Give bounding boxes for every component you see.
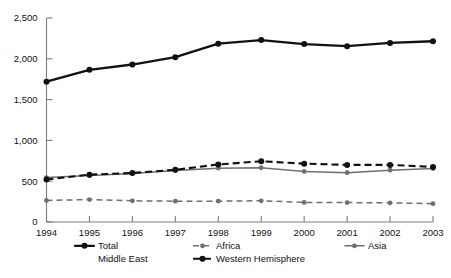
x-tick-label: 1999 bbox=[251, 227, 272, 238]
x-tick-label: 1996 bbox=[122, 227, 143, 238]
series-line bbox=[47, 168, 434, 178]
x-tick-label: 2003 bbox=[422, 227, 443, 238]
legend-label: Middle East bbox=[98, 253, 148, 264]
data-point bbox=[388, 200, 393, 205]
data-point bbox=[301, 41, 307, 47]
x-tick-label: 1997 bbox=[165, 227, 186, 238]
y-tick-label: 1,500 bbox=[14, 94, 38, 105]
legend-marker-icon bbox=[82, 243, 88, 249]
series-asia bbox=[44, 165, 435, 180]
legend-item-middle-east[interactable]: Middle East bbox=[98, 253, 148, 264]
data-point bbox=[130, 198, 135, 203]
data-point bbox=[388, 168, 393, 173]
y-axis-tick-labels: 05001,0001,5002,0002,500 bbox=[14, 12, 38, 227]
data-point bbox=[215, 41, 221, 47]
x-tick-marks bbox=[47, 216, 434, 222]
legend-item-asia[interactable]: Asia bbox=[345, 240, 387, 251]
y-tick-label: 1,000 bbox=[14, 135, 38, 146]
data-point bbox=[215, 161, 221, 167]
data-point bbox=[345, 170, 350, 175]
chart-legend: TotalMiddle EastAfricaWestern Hemisphere… bbox=[75, 240, 387, 264]
data-point bbox=[302, 200, 307, 205]
data-point bbox=[44, 79, 50, 85]
x-tick-label: 1998 bbox=[208, 227, 229, 238]
y-tick-label: 0 bbox=[32, 216, 37, 227]
legend-marker-icon bbox=[352, 243, 357, 248]
y-tick-marks bbox=[47, 18, 53, 222]
series-africa bbox=[44, 197, 435, 206]
data-point bbox=[173, 199, 178, 204]
data-point bbox=[344, 162, 350, 168]
data-point bbox=[86, 172, 92, 178]
data-point bbox=[387, 162, 393, 168]
legend-marker-icon bbox=[200, 243, 205, 248]
x-tick-label: 1994 bbox=[36, 227, 57, 238]
data-series-layer bbox=[44, 37, 437, 206]
data-point bbox=[86, 67, 92, 73]
chart-axes bbox=[47, 18, 434, 222]
legend-marker-icon bbox=[200, 256, 206, 262]
data-point bbox=[216, 199, 221, 204]
x-axis-tick-labels: 1994199519961997199819992000200120022003 bbox=[36, 227, 444, 238]
legend-label: Asia bbox=[368, 240, 387, 251]
data-point bbox=[430, 38, 436, 44]
legend-item-western-hemisphere[interactable]: Western Hemisphere bbox=[193, 253, 305, 264]
data-point bbox=[258, 37, 264, 43]
y-tick-label: 2,000 bbox=[14, 53, 38, 64]
x-tick-label: 2001 bbox=[337, 227, 358, 238]
data-point bbox=[172, 167, 178, 173]
data-point bbox=[344, 43, 350, 49]
data-point bbox=[258, 158, 264, 164]
data-point bbox=[431, 201, 436, 206]
data-point bbox=[430, 164, 436, 170]
data-point bbox=[259, 198, 264, 203]
x-tick-label: 2002 bbox=[379, 227, 400, 238]
data-point bbox=[129, 62, 135, 68]
series-total-middle-east bbox=[44, 37, 437, 85]
data-point bbox=[387, 40, 393, 46]
y-tick-label: 500 bbox=[22, 176, 38, 187]
legend-label: Western Hemisphere bbox=[216, 253, 305, 264]
line-chart: 05001,0001,5002,0002,500 199419951996199… bbox=[0, 0, 451, 278]
legend-item-africa[interactable]: Africa bbox=[193, 240, 241, 251]
data-point bbox=[259, 165, 264, 170]
legend-label: Africa bbox=[216, 240, 241, 251]
y-tick-label: 2,500 bbox=[14, 12, 38, 23]
x-tick-label: 2000 bbox=[294, 227, 315, 238]
series-line bbox=[47, 200, 434, 204]
data-point bbox=[302, 169, 307, 174]
data-point bbox=[129, 170, 135, 176]
data-point bbox=[172, 54, 178, 60]
legend-item-total[interactable]: Total bbox=[75, 240, 118, 251]
data-point bbox=[301, 161, 307, 167]
data-point bbox=[87, 197, 92, 202]
data-point bbox=[44, 198, 49, 203]
legend-label: Total bbox=[98, 240, 118, 251]
x-tick-label: 1995 bbox=[79, 227, 100, 238]
chart-svg: 05001,0001,5002,0002,500 199419951996199… bbox=[0, 0, 451, 278]
data-point bbox=[345, 200, 350, 205]
data-point bbox=[44, 177, 50, 183]
series-line bbox=[47, 40, 434, 82]
